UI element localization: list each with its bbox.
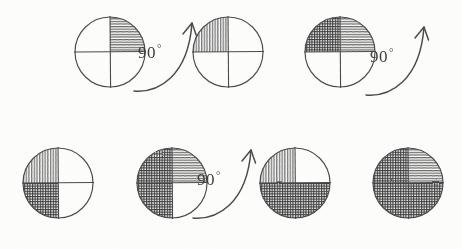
degree-symbol: ° <box>216 169 220 181</box>
rotation-angle-label: 90° <box>197 169 220 190</box>
rotation-angle-label: 90° <box>370 46 393 67</box>
angle-value: 90 <box>370 47 388 66</box>
figure-canvas <box>0 0 462 249</box>
angle-value: 90 <box>138 43 156 62</box>
angle-value: 90 <box>197 170 215 189</box>
paper-grain-overlay <box>0 0 462 249</box>
degree-symbol: ° <box>389 46 393 58</box>
rotation-sequence-figure: 90°90°90° <box>0 0 462 249</box>
degree-symbol: ° <box>157 42 161 54</box>
rotation-angle-label: 90° <box>138 42 161 63</box>
